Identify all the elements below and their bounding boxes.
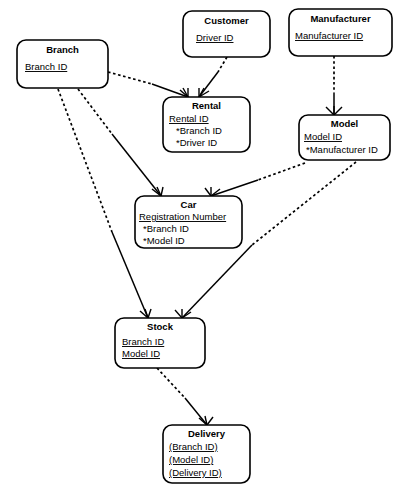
- entity-model-attr-0: Model ID: [304, 131, 342, 142]
- entity-delivery[interactable]: Delivery (Branch ID) (Model ID) (Deliver…: [163, 425, 250, 483]
- entity-car-attr-2: *Model ID: [143, 235, 185, 246]
- relationship-line-dashed: [157, 368, 185, 398]
- relationship-manufacturer-model: [326, 56, 342, 115]
- relationship-line-dashed: [258, 163, 305, 180]
- entity-delivery-attr-2: (Delivery ID): [169, 467, 222, 478]
- relationship-line-dashed: [58, 89, 112, 232]
- relationship-line-solid: [152, 84, 188, 97]
- relationship-customer-rental: [199, 57, 227, 97]
- entity-rental-attr-2: *Driver ID: [176, 137, 217, 148]
- entity-car[interactable]: Car Registration Number *Branch ID *Mode…: [135, 196, 242, 248]
- entity-model-title: Model: [331, 118, 358, 129]
- relationship-line-solid: [182, 245, 252, 318]
- entity-customer[interactable]: Customer Driver ID: [183, 11, 270, 57]
- entity-delivery-title: Delivery: [188, 428, 226, 439]
- entity-delivery-attr-0: (Branch ID): [169, 441, 218, 452]
- relationship-line-dashed: [78, 89, 112, 134]
- entity-stock-attr-1: Model ID: [122, 348, 160, 359]
- entity-customer-attr-0: Driver ID: [196, 32, 234, 43]
- relationship-line-solid: [185, 398, 207, 425]
- er-diagram-svg: Branch Branch ID Customer Driver ID Manu…: [0, 0, 405, 498]
- entity-stock-title: Stock: [147, 321, 174, 332]
- entity-stock[interactable]: Stock Branch ID Model ID: [115, 318, 205, 368]
- entity-car-attr-1: *Branch ID: [143, 223, 189, 234]
- entity-rental-attr-0: Rental ID: [169, 113, 209, 124]
- relationship-line-solid: [211, 180, 258, 196]
- entity-customer-title: Customer: [204, 15, 249, 26]
- relationship-line-dashed: [108, 72, 152, 84]
- entity-rental-title: Rental: [192, 100, 221, 111]
- entity-model[interactable]: Model Model ID *Manufacturer ID: [299, 115, 390, 160]
- relationship-branch-rental: [108, 72, 188, 97]
- entity-branch-title: Branch: [46, 44, 79, 55]
- crows-foot-model-from-manufacturer: [326, 106, 342, 115]
- entity-branch-attr-0: Branch ID: [25, 61, 67, 72]
- entity-manufacturer-attr-0: Manufacturer ID: [295, 30, 363, 41]
- relationship-stock-delivery: [157, 368, 213, 425]
- entity-model-attr-1: *Manufacturer ID: [306, 144, 378, 155]
- entity-branch[interactable]: Branch Branch ID: [17, 40, 108, 88]
- entity-car-title: Car: [181, 199, 197, 210]
- relationship-line-dashed: [252, 162, 356, 245]
- relationship-line-solid: [112, 134, 161, 196]
- crows-foot-car-from-model: [205, 187, 220, 196]
- entity-rental[interactable]: Rental Rental ID *Branch ID *Driver ID: [163, 97, 250, 152]
- relationship-line-dashed: [218, 57, 227, 72]
- entity-stock-attr-0: Branch ID: [122, 336, 164, 347]
- entity-manufacturer[interactable]: Manufacturer Manufacturer ID: [289, 9, 392, 56]
- entity-manufacturer-title: Manufacturer: [310, 13, 370, 24]
- relationship-branch-car: [78, 89, 163, 196]
- er-diagram-canvas: Branch Branch ID Customer Driver ID Manu…: [0, 0, 405, 498]
- relationship-model-car: [205, 163, 305, 196]
- entity-car-attr-0: Registration Number: [139, 211, 226, 222]
- entity-delivery-attr-1: (Model ID): [169, 454, 213, 465]
- entity-rental-attr-1: *Branch ID: [176, 125, 222, 136]
- crows-foot-rental-from-customer: [199, 88, 209, 97]
